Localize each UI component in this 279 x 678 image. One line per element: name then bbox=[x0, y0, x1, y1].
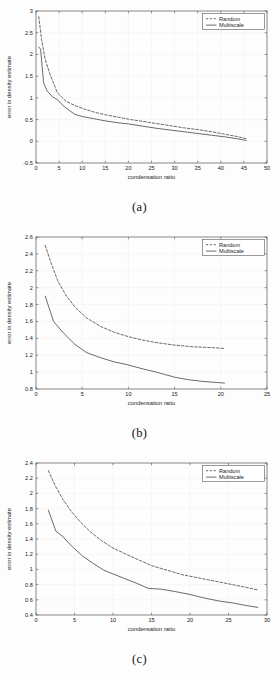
x-tick-label: 5 bbox=[73, 617, 76, 623]
x-tick-label: 15 bbox=[148, 617, 154, 623]
x-tick-label: 50 bbox=[264, 165, 270, 171]
caption-b: (b) bbox=[0, 426, 279, 441]
grid-lines bbox=[36, 237, 267, 389]
figure-container: 05101520253035404550-0.500.511.522.53con… bbox=[0, 0, 279, 678]
x-tick-label: 0 bbox=[34, 391, 37, 397]
chart-b: 05101520250.811.21.41.61.822.22.42.6cond… bbox=[0, 226, 279, 422]
panel-c: 0510152025300.40.60.811.21.41.61.822.22.… bbox=[0, 452, 279, 678]
x-tick-label: 30 bbox=[264, 617, 270, 623]
legend: RandomMultiscale bbox=[203, 466, 265, 482]
legend-label-multiscale: Multiscale bbox=[219, 248, 244, 254]
y-tick-label: 1.4 bbox=[25, 536, 33, 542]
y-tick-label: 1.4 bbox=[25, 335, 33, 341]
legend-label-random: Random bbox=[219, 468, 240, 474]
y-tick-label: 0.8 bbox=[25, 386, 33, 392]
plot-c-wrapper: 0510152025300.40.60.811.21.41.61.822.22.… bbox=[0, 452, 279, 648]
grid-lines bbox=[36, 463, 267, 615]
x-tick-label: 25 bbox=[225, 617, 231, 623]
x-tick-label: 10 bbox=[125, 391, 131, 397]
legend: RandomMultiscale bbox=[203, 240, 265, 256]
legend-label-multiscale: Multiscale bbox=[219, 474, 244, 480]
y-tick-label: 1.5 bbox=[25, 73, 33, 79]
y-tick-label: 1.8 bbox=[25, 302, 33, 308]
x-tick-label: 5 bbox=[81, 391, 84, 397]
x-tick-label: 0 bbox=[34, 617, 37, 623]
series-line-multiscale bbox=[39, 47, 246, 140]
series-line-multiscale bbox=[45, 296, 224, 383]
series-line-random bbox=[45, 245, 224, 348]
y-tick-label: 1.6 bbox=[25, 318, 33, 324]
y-axis-label: error in density estimate bbox=[6, 56, 12, 118]
x-tick-label: 15 bbox=[171, 391, 177, 397]
x-axis-label: condensation ratio bbox=[128, 626, 175, 632]
x-tick-label: 5 bbox=[58, 165, 61, 171]
caption-c: (c) bbox=[0, 652, 279, 667]
x-tick-label: 10 bbox=[110, 617, 116, 623]
panel-b: 05101520250.811.21.41.61.822.22.42.6cond… bbox=[0, 226, 279, 452]
x-tick-label: 20 bbox=[218, 391, 224, 397]
panel-a: 05101520253035404550-0.500.511.522.53con… bbox=[0, 0, 279, 226]
y-tick-label: 1.8 bbox=[25, 506, 33, 512]
y-tick-label: 1 bbox=[30, 566, 33, 572]
x-tick-label: 25 bbox=[148, 165, 154, 171]
y-axis: 0.811.21.41.61.822.22.42.6 bbox=[25, 234, 267, 392]
y-tick-label: 3 bbox=[30, 8, 33, 14]
y-tick-label: 2.6 bbox=[25, 234, 33, 240]
x-tick-label: 30 bbox=[171, 165, 177, 171]
x-tick-label: 40 bbox=[218, 165, 224, 171]
legend-label-random: Random bbox=[219, 16, 240, 22]
y-tick-label: 2.4 bbox=[25, 251, 33, 257]
y-axis-label: error in density estimate bbox=[6, 508, 12, 570]
x-tick-label: 25 bbox=[264, 391, 270, 397]
plot-a-wrapper: 05101520253035404550-0.500.511.522.53con… bbox=[0, 0, 279, 196]
y-tick-label: -0.5 bbox=[23, 160, 33, 166]
y-tick-label: 2 bbox=[30, 490, 33, 496]
x-tick-label: 10 bbox=[79, 165, 85, 171]
chart-c: 0510152025300.40.60.811.21.41.61.822.22.… bbox=[0, 452, 279, 648]
y-tick-label: 0.6 bbox=[25, 597, 33, 603]
series-line-random bbox=[39, 17, 246, 139]
legend: RandomMultiscale bbox=[203, 14, 265, 30]
x-tick-label: 20 bbox=[125, 165, 131, 171]
x-tick-label: 20 bbox=[187, 617, 193, 623]
series-line-random bbox=[48, 471, 257, 590]
chart-a: 05101520253035404550-0.500.511.522.53con… bbox=[0, 0, 279, 196]
y-tick-label: 2.2 bbox=[25, 475, 33, 481]
x-axis: 0510152025 bbox=[34, 237, 270, 397]
legend-label-random: Random bbox=[219, 242, 240, 248]
x-tick-label: 0 bbox=[34, 165, 37, 171]
series-line-multiscale bbox=[48, 510, 257, 607]
y-tick-label: 0.5 bbox=[25, 117, 33, 123]
x-axis: 051015202530 bbox=[34, 463, 270, 623]
legend-label-multiscale: Multiscale bbox=[219, 22, 244, 28]
x-tick-label: 35 bbox=[195, 165, 201, 171]
y-tick-label: 2.4 bbox=[25, 460, 33, 466]
y-tick-label: 1 bbox=[30, 369, 33, 375]
x-axis: 05101520253035404550 bbox=[34, 11, 270, 171]
y-tick-label: 2 bbox=[30, 51, 33, 57]
y-tick-label: 1 bbox=[30, 95, 33, 101]
y-axis-label: error in density estimate bbox=[6, 282, 12, 344]
x-axis-label: condensation ratio bbox=[128, 174, 175, 180]
y-tick-label: 1.2 bbox=[25, 551, 33, 557]
y-tick-label: 0 bbox=[30, 138, 33, 144]
plot-frame bbox=[36, 237, 267, 389]
y-tick-label: 2.5 bbox=[25, 30, 33, 36]
caption-a: (a) bbox=[0, 200, 279, 215]
grid-lines bbox=[36, 11, 267, 163]
x-axis-label: condensation ratio bbox=[128, 400, 175, 406]
y-axis: -0.500.511.522.53 bbox=[23, 8, 267, 166]
y-tick-label: 2 bbox=[30, 285, 33, 291]
y-tick-label: 0.8 bbox=[25, 582, 33, 588]
plot-b-wrapper: 05101520250.811.21.41.61.822.22.42.6cond… bbox=[0, 226, 279, 422]
x-tick-label: 45 bbox=[241, 165, 247, 171]
y-tick-label: 0.4 bbox=[25, 612, 33, 618]
y-tick-label: 2.2 bbox=[25, 268, 33, 274]
y-tick-label: 1.6 bbox=[25, 521, 33, 527]
y-tick-label: 1.2 bbox=[25, 352, 33, 358]
x-tick-label: 15 bbox=[102, 165, 108, 171]
axis-box bbox=[36, 237, 267, 389]
